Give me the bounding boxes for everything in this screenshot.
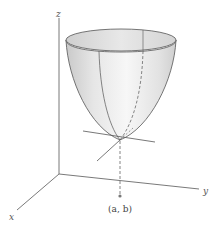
z-axis-label: z xyxy=(55,9,61,19)
tangent-line-x xyxy=(97,140,120,161)
point-a-b xyxy=(118,194,121,197)
y-axis xyxy=(59,174,199,189)
point-a-b-label: (a, b) xyxy=(108,204,132,214)
paraboloid-surface xyxy=(66,40,176,140)
x-axis-label: x xyxy=(9,212,14,222)
y-axis-label: y xyxy=(202,186,209,196)
x-axis xyxy=(17,174,59,210)
paraboloid-diagram: z x y (a, b) xyxy=(0,0,221,227)
paraboloid-rim xyxy=(66,29,176,51)
